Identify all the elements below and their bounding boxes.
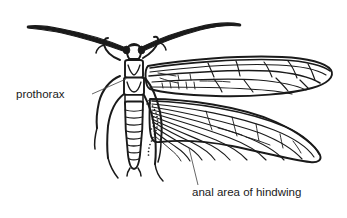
prothorax-label-text: prothorax (16, 88, 65, 100)
insect-diagram-figure: prothorax anal area of hindwing (0, 0, 347, 218)
forewing (146, 57, 332, 97)
insect-line-drawing: prothorax anal area of hindwing (0, 0, 347, 218)
head-suture (130, 45, 139, 46)
compound-eye-left (123, 46, 130, 54)
anal-area-label-text: anal area of hindwing (192, 186, 301, 198)
compound-eye-right (138, 46, 145, 54)
